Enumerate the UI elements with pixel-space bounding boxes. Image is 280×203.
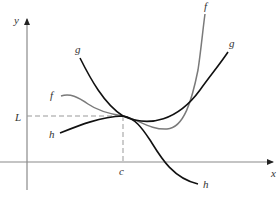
curve-g: g g	[75, 37, 235, 121]
curve-f-end-label: f	[204, 0, 209, 12]
axes: x y	[0, 14, 276, 190]
limit-label-L: L	[14, 111, 21, 123]
curve-f-path	[61, 14, 205, 129]
curve-h-path	[60, 116, 198, 184]
curve-g-end-label: g	[229, 37, 235, 49]
y-axis-label: y	[13, 14, 19, 26]
diagram-canvas: x y L c f f g g h h	[0, 0, 280, 203]
squeeze-theorem-diagram: x y L c f f g g h h	[0, 0, 280, 203]
curve-f-start-label: f	[50, 89, 55, 101]
curve-h: h h	[49, 116, 209, 190]
curve-h-start-label: h	[49, 128, 55, 140]
c-label: c	[119, 165, 124, 177]
curve-h-end-label: h	[203, 178, 209, 190]
curve-g-start-label: g	[75, 43, 81, 55]
guide-lines: L c	[14, 111, 124, 177]
x-axis-label: x	[270, 167, 276, 179]
curve-f: f f	[50, 0, 209, 129]
